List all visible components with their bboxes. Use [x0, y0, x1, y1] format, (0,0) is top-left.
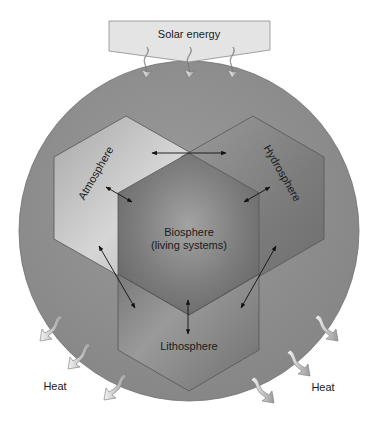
earth-systems-diagram: Solar energy Atmosphere Hydrosphere Bios…: [0, 0, 379, 432]
solar-energy-label: Solar energy: [158, 28, 221, 40]
biosphere-label: Biosphere: [164, 226, 214, 238]
lithosphere-label: Lithosphere: [160, 340, 218, 352]
heat-label-right: Heat: [311, 381, 334, 393]
heat-label-left: Heat: [43, 380, 66, 392]
biosphere-sublabel: (living systems): [151, 239, 227, 251]
